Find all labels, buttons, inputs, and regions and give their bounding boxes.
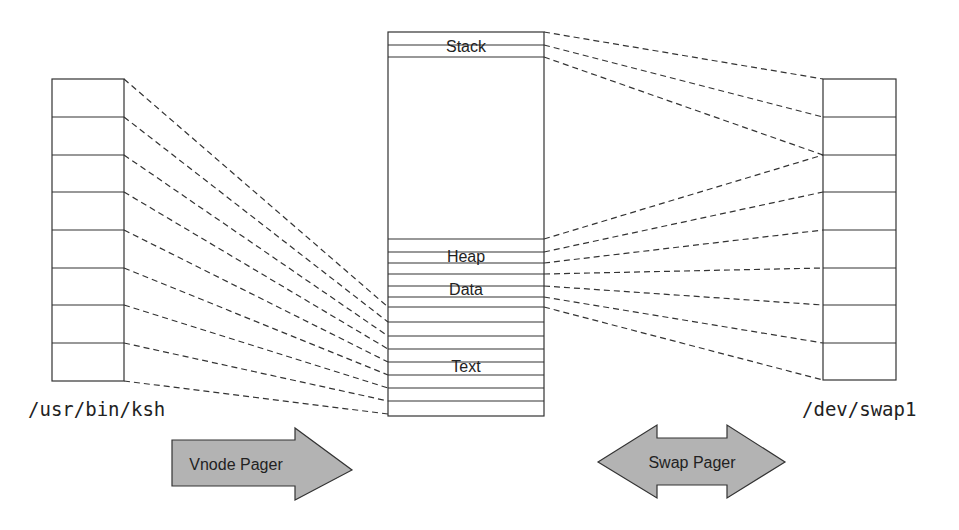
memory-mapping-diagram: Stack Heap Data Text /usr/bin/ksh /dev/s… bbox=[0, 0, 959, 530]
swap-pager-label: Swap Pager bbox=[648, 454, 736, 471]
swap-mapping-lines bbox=[544, 32, 823, 380]
vnode-pager-arrow: Vnode Pager bbox=[172, 428, 352, 500]
ksh-file-label: /usr/bin/ksh bbox=[28, 398, 165, 420]
segment-label-data: Data bbox=[449, 281, 483, 298]
ksh-file-pages bbox=[52, 79, 124, 381]
swap-device-label: /dev/swap1 bbox=[802, 398, 916, 420]
vnode-mapping-lines bbox=[124, 79, 388, 414]
swap-pager-arrow: Swap Pager bbox=[598, 425, 785, 498]
segment-label-text: Text bbox=[451, 358, 481, 375]
segment-label-heap: Heap bbox=[447, 248, 485, 265]
swap-device-pages bbox=[823, 79, 896, 380]
segment-label-stack: Stack bbox=[446, 38, 487, 55]
vnode-pager-label: Vnode Pager bbox=[189, 456, 283, 473]
